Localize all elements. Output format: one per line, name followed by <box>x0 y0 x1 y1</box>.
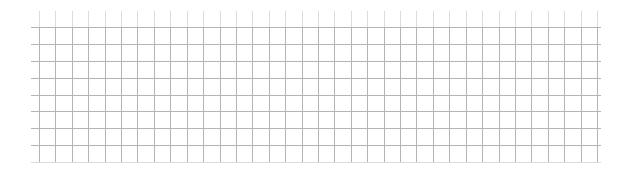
grid-canvas <box>0 0 631 171</box>
